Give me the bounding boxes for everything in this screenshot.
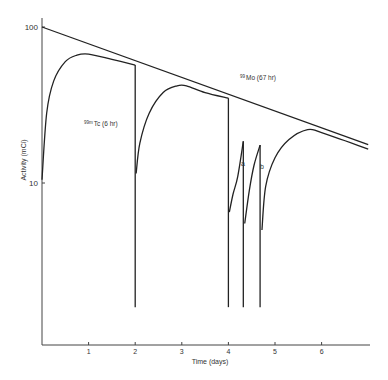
tc-curve (42, 54, 135, 180)
decay-chart: 100 10 123456 Time (days) Activity (mCi)… (0, 0, 388, 380)
annotation-a: a (241, 160, 245, 167)
tc-annotation: 99mTc (6 hr) (84, 120, 118, 128)
x-tick-label: 2 (133, 348, 137, 355)
tc-curve (245, 145, 260, 223)
x-tick-label: 5 (273, 348, 277, 355)
x-ticks: 123456 (87, 342, 324, 355)
mo-decay-line (42, 27, 368, 145)
y-tick-label-10: 10 (29, 179, 38, 188)
tc-curve (229, 141, 243, 212)
y-axis-label: Activity (mCi) (20, 139, 28, 180)
x-tick-label: 6 (320, 348, 324, 355)
tc-curve (136, 85, 228, 174)
series-group (42, 27, 368, 307)
annotation-b: b (260, 163, 264, 170)
y-tick-label-100: 100 (25, 23, 39, 32)
x-axis-label: Time (days) (192, 358, 229, 366)
x-tick-label: 4 (226, 348, 230, 355)
mo-annotation: 99Mo (67 hr) (240, 74, 276, 82)
tc-curve (262, 129, 368, 230)
x-tick-label: 3 (180, 348, 184, 355)
x-tick-label: 1 (87, 348, 91, 355)
